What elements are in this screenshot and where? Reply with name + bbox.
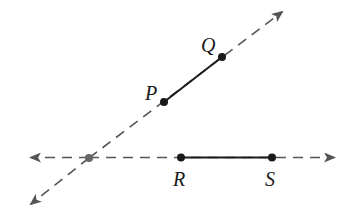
label-p: P (144, 82, 157, 104)
intersection-point (85, 154, 93, 162)
point-s (268, 154, 276, 162)
point-p (160, 98, 168, 106)
point-q (218, 53, 226, 61)
geometry-diagram: P Q R S (0, 0, 358, 213)
point-r (177, 154, 185, 162)
oblique-line (31, 12, 282, 204)
segment-pq (164, 57, 222, 102)
label-s: S (265, 168, 275, 190)
label-q: Q (201, 34, 216, 56)
label-r: R (172, 168, 185, 190)
